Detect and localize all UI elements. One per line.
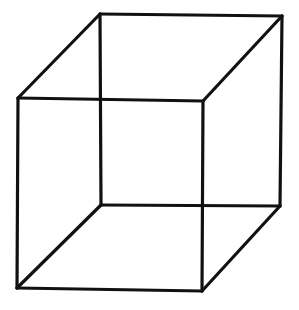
necker-cube-diagram bbox=[0, 0, 299, 310]
cube-edge-front-bottom-left-to-back-bottom-left bbox=[17, 205, 101, 288]
cube-edge-back-top-left-to-back-top-right bbox=[100, 14, 282, 16]
cube-edge-front-bottom-right-to-back-bottom-right bbox=[202, 206, 280, 291]
cube-edge-front-bottom-right-to-front-bottom-left bbox=[17, 288, 202, 291]
cube-edge-back-bottom-left-to-back-top-left bbox=[100, 14, 101, 205]
cube-drawing bbox=[0, 0, 299, 310]
cube-edge-front-top-left-to-back-top-left bbox=[18, 14, 100, 98]
cube-edge-back-bottom-right-to-back-bottom-left bbox=[101, 205, 280, 206]
cube-edge-front-top-left-to-front-top-right bbox=[18, 98, 203, 101]
cube-edge-front-top-right-to-front-bottom-right bbox=[202, 101, 203, 291]
cube-edge-back-top-right-to-back-bottom-right bbox=[280, 16, 282, 206]
cube-edge-front-bottom-left-to-front-top-left bbox=[17, 98, 18, 288]
cube-edge-front-top-right-to-back-top-right bbox=[203, 16, 282, 101]
